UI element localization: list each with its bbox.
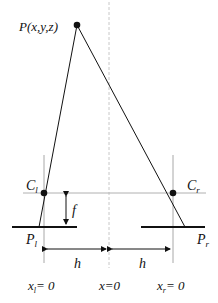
- left-half-baseline-label: h: [74, 256, 81, 271]
- right-origin-label: xr= 0: [156, 278, 185, 295]
- left-camera-center-marker: [41, 190, 48, 197]
- point-p-label: P(x,y,z): [18, 19, 58, 34]
- right-camera-center-marker: [170, 190, 177, 197]
- left-image-plane-label: Pl: [25, 232, 38, 249]
- left-projection-ray: [39, 25, 77, 227]
- diagram-canvas: P(x,y,z) Cl Cr f Pl Pr h h xl= 0 x=0 xr=…: [0, 0, 218, 303]
- right-half-baseline-label: h: [139, 256, 146, 271]
- right-image-plane-label: Pr: [196, 232, 210, 249]
- right-camera-center-label: Cr: [187, 178, 200, 195]
- right-projection-ray: [77, 25, 185, 227]
- center-origin-label: x=0: [98, 278, 121, 293]
- focal-length-label: f: [72, 203, 78, 218]
- point-p-marker: [74, 22, 81, 29]
- stereo-geometry-diagram: P(x,y,z) Cl Cr f Pl Pr h h xl= 0 x=0 xr=…: [0, 0, 218, 303]
- left-origin-label: xl= 0: [27, 278, 55, 295]
- left-camera-center-label: Cl: [26, 178, 38, 195]
